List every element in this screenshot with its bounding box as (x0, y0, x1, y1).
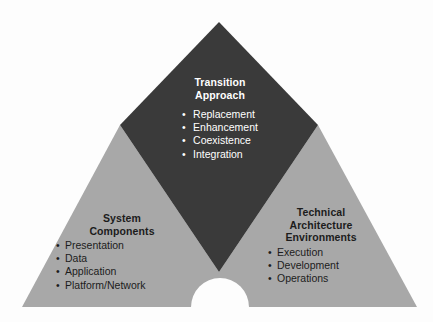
triangle-shapes (0, 0, 433, 322)
triangle-diagram: Transition Approach •Replacement •Enhanc… (0, 0, 433, 322)
